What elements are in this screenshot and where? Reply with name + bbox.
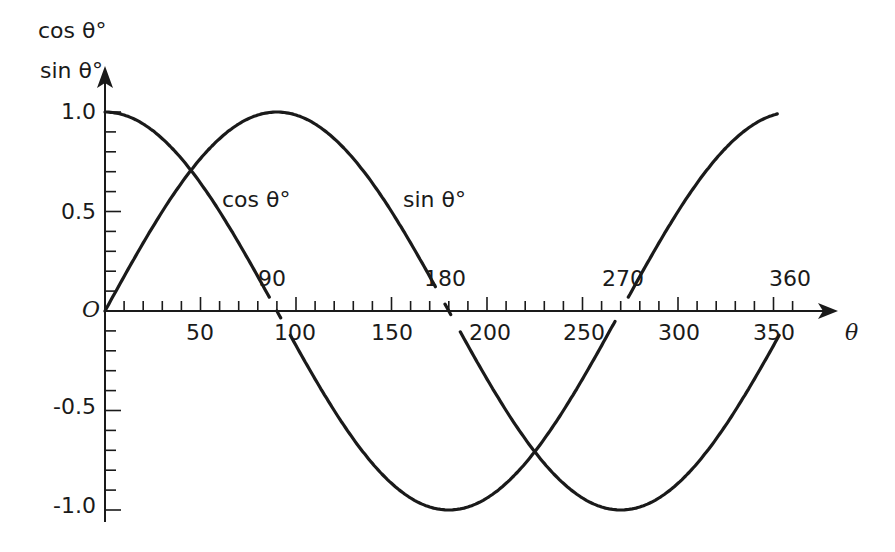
x-tick-150: 150: [371, 322, 413, 344]
origin-label: O: [82, 299, 100, 321]
x-axis-title: θ: [845, 322, 858, 344]
y-axis-title-cos: cos θ°: [38, 20, 106, 42]
x-tick-350: 350: [753, 322, 795, 344]
x-mark-270: 270: [602, 268, 644, 290]
x-mark-90: 90: [258, 268, 286, 290]
axes: [97, 66, 838, 522]
y-tick-1.0: 1.0: [16, 101, 96, 123]
sin-curve-label: sin θ°: [403, 189, 466, 211]
y-axis-title-sin: sin θ°: [40, 60, 103, 82]
y-tick-0.5: 0.5: [16, 201, 96, 223]
x-tick-50: 50: [186, 322, 214, 344]
x-mark-180: 180: [424, 268, 466, 290]
cos-curve-label: cos θ°: [222, 189, 290, 211]
x-mark-360: 360: [769, 268, 811, 290]
y-tick--1.0: -1.0: [16, 495, 96, 517]
x-tick-200: 200: [469, 322, 511, 344]
y-tick--0.5: -0.5: [16, 396, 96, 418]
x-tick-100: 100: [274, 322, 316, 344]
x-tick-300: 300: [658, 322, 700, 344]
x-tick-250: 250: [563, 322, 605, 344]
